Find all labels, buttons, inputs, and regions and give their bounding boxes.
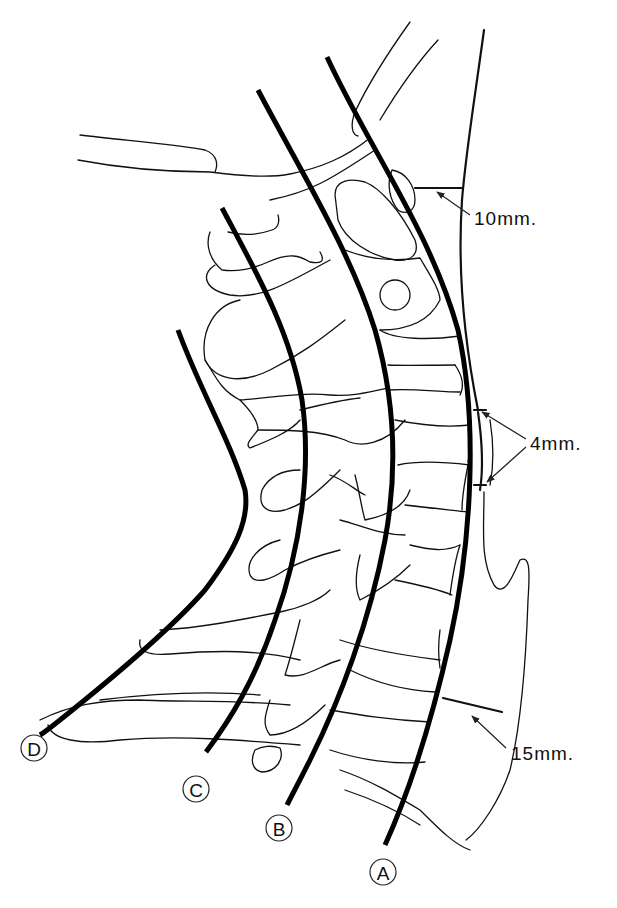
skull-base-outline (78, 22, 438, 200)
line-label-C: C (183, 776, 209, 802)
line-label-A: A (370, 859, 396, 885)
svg-text:D: D (27, 739, 41, 760)
reference-line-D (40, 330, 246, 735)
atlas-dens (335, 180, 416, 260)
measurement-label-upper: 10mm. (474, 208, 537, 229)
measurement-label-lower: 15mm. (511, 743, 574, 764)
cervical-spine-diagram: 10mm. 4mm. 15mm. D C B A (0, 0, 617, 908)
measurement-lower: 15mm. (443, 698, 574, 764)
reference-line-B (258, 90, 393, 805)
line-label-D: D (21, 735, 47, 761)
vertebrae (100, 170, 471, 850)
svg-text:C: C (189, 780, 203, 801)
reference-line-C (206, 208, 306, 752)
reference-line-A (327, 57, 470, 845)
measurement-label-middle: 4mm. (530, 433, 582, 454)
svg-text:B: B (273, 819, 286, 840)
svg-text:A: A (377, 863, 390, 884)
line-label-B: B (266, 815, 292, 841)
measurement-upper: 10mm. (415, 188, 537, 229)
